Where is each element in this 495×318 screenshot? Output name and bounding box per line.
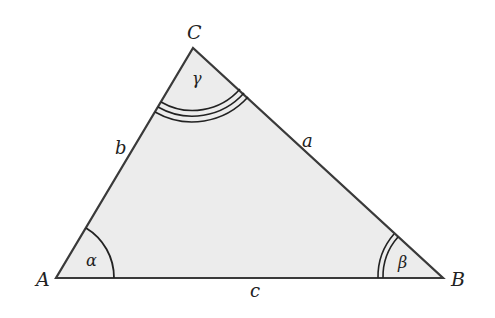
side-label-c: c — [250, 280, 260, 301]
angle-label-beta: β — [397, 253, 407, 272]
triangle-diagram: C A B b a c α β γ — [0, 0, 495, 318]
angle-label-alpha: α — [86, 251, 97, 270]
triangle-abc — [56, 48, 443, 278]
vertex-label-c: C — [187, 21, 202, 43]
vertex-label-b: B — [450, 268, 465, 290]
angle-label-gamma: γ — [192, 69, 202, 88]
side-label-b: b — [115, 137, 127, 158]
side-label-a: a — [302, 130, 313, 151]
vertex-label-a: A — [34, 268, 50, 290]
